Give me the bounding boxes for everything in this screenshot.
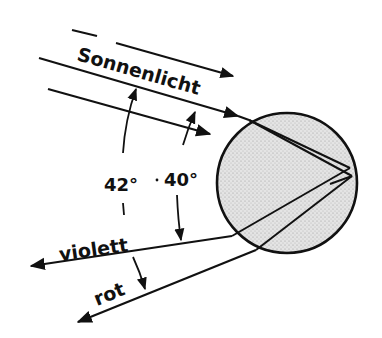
label-angle-42: 42° bbox=[104, 174, 138, 195]
label-violet: violett bbox=[57, 234, 129, 265]
label-sunlight: Sonnenlicht bbox=[75, 43, 203, 99]
label-angle-40: 40° bbox=[164, 169, 198, 190]
rainbow-diagram: Sonnenlicht 42° 40° violett rot bbox=[0, 0, 382, 338]
